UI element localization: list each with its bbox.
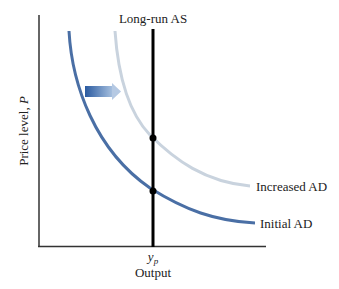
- increased-ad-label: Increased AD: [256, 179, 327, 194]
- long-run-as-label: Long-run AS: [119, 11, 187, 26]
- y-axis-label: Price level, P: [16, 96, 31, 166]
- initial-ad-label: Initial AD: [260, 216, 312, 231]
- ad-shift-diagram: Long-run AS Increased AD Initial AD Pric…: [0, 0, 339, 289]
- equilibrium-point-initial: [150, 188, 157, 195]
- x-axis-label: Output: [135, 265, 172, 280]
- equilibrium-point-increased: [150, 135, 157, 142]
- x-tick-yp: yp: [146, 249, 159, 266]
- shift-arrow-icon: [85, 83, 121, 100]
- initial-ad-curve: [69, 31, 255, 223]
- increased-ad-curve: [115, 31, 250, 186]
